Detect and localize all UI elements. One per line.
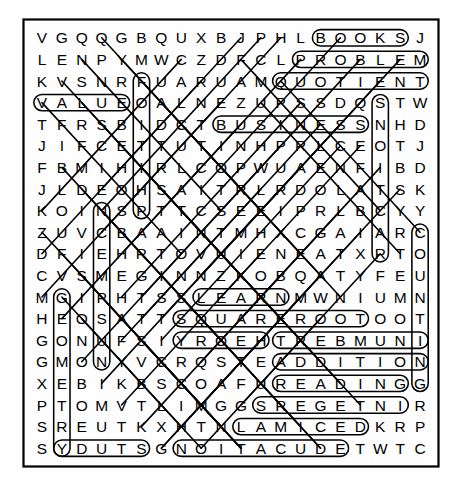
grid-letter: X <box>196 29 207 46</box>
grid-letter: K <box>375 29 386 46</box>
grid-letter: I <box>418 332 422 349</box>
grid-letter: A <box>315 245 326 262</box>
grid-letter: C <box>275 440 286 457</box>
grid-letter: S <box>156 375 166 392</box>
grid-letter: U <box>414 267 425 284</box>
grid-letter: Z <box>236 94 245 111</box>
grid-letter: N <box>275 245 286 262</box>
grid-letter: U <box>176 29 187 46</box>
grid-letter: M <box>394 289 407 306</box>
grid-letter: R <box>116 73 127 90</box>
grid-letter: R <box>255 310 266 327</box>
grid-letter: S <box>37 418 47 435</box>
grid-letter: K <box>37 73 48 90</box>
grid-letter: E <box>335 418 345 435</box>
grid-letter: T <box>395 137 405 154</box>
grid-letter: N <box>414 353 425 370</box>
grid-letter: M <box>354 332 367 349</box>
grid-letter: J <box>38 137 46 154</box>
grid-letter: E <box>335 440 345 457</box>
grid-letter: O <box>374 310 386 327</box>
grid-letter: R <box>395 418 406 435</box>
grid-letter: R <box>176 353 187 370</box>
grid-letter: A <box>57 94 68 111</box>
grid-letter: T <box>117 440 127 457</box>
grid-letter: D <box>414 116 425 133</box>
grid-letter: T <box>117 418 127 435</box>
grid-letter: D <box>335 94 346 111</box>
grid-letter: K <box>415 181 426 198</box>
grid-letter: O <box>394 353 406 370</box>
grid-letter: E <box>96 245 106 262</box>
grid-letter: E <box>335 397 345 414</box>
grid-letter: J <box>416 137 424 154</box>
grid-letter: S <box>375 94 385 111</box>
grid-letter: G <box>315 397 327 414</box>
grid-letter: U <box>375 289 386 306</box>
grid-letter: W <box>313 289 328 306</box>
grid-letter: I <box>378 353 382 370</box>
grid-letter: J <box>416 29 424 46</box>
grid-letter: O <box>56 202 68 219</box>
grid-letter: R <box>395 224 406 241</box>
grid-letter: T <box>137 397 147 414</box>
grid-letter: T <box>276 332 286 349</box>
grid-letter: M <box>55 353 68 370</box>
grid-letter: R <box>56 418 67 435</box>
grid-letter: G <box>36 332 48 349</box>
grid-letter: R <box>315 202 326 219</box>
grid-letter: T <box>196 418 206 435</box>
grid-letter: E <box>57 51 67 68</box>
grid-letter: O <box>195 375 207 392</box>
grid-letter: Q <box>76 29 88 46</box>
grid-letter: T <box>415 73 425 90</box>
grid-letter: G <box>414 375 426 392</box>
grid-letter: C <box>36 267 47 284</box>
grid-letter: E <box>116 267 126 284</box>
grid-letter: B <box>395 159 405 176</box>
grid-letter: L <box>296 29 305 46</box>
grid-letter: Q <box>295 267 307 284</box>
grid-letter: H <box>395 116 406 133</box>
grid-letter: A <box>256 418 267 435</box>
grid-letter: T <box>356 310 366 327</box>
grid-letter: B <box>136 29 146 46</box>
grid-letter: P <box>96 51 106 68</box>
grid-letter: E <box>256 353 266 370</box>
grid-letter: C <box>315 418 326 435</box>
grid-letter: Y <box>415 202 425 219</box>
grid-letter: B <box>216 116 226 133</box>
grid-letter: Z <box>196 51 205 68</box>
grid-letter: N <box>375 375 386 392</box>
grid-letter: N <box>176 440 187 457</box>
grid-letter: C <box>414 440 425 457</box>
grid-letter: T <box>336 267 346 284</box>
grid-letter: L <box>376 51 385 68</box>
grid-letter: L <box>276 51 285 68</box>
grid-letter: T <box>57 397 67 414</box>
grid-letter: I <box>358 375 362 392</box>
grid-letter: V <box>37 29 48 46</box>
grid-letter: N <box>414 289 425 306</box>
grid-letter: I <box>179 397 183 414</box>
grid-letter: I <box>358 289 362 306</box>
grid-letter: S <box>96 310 106 327</box>
grid-letter: A <box>236 289 247 306</box>
grid-letter: T <box>356 440 366 457</box>
grid-letter: K <box>116 375 127 392</box>
grid-letter: T <box>356 353 366 370</box>
grid-letter: A <box>315 375 326 392</box>
grid-letter: K <box>375 418 386 435</box>
grid-letter: U <box>215 310 226 327</box>
grid-letter: F <box>236 375 245 392</box>
grid-letter: N <box>375 397 386 414</box>
grid-letter: T <box>37 116 47 133</box>
grid-letter: I <box>398 397 402 414</box>
grid-letter: E <box>315 332 325 349</box>
puzzle-canvas[interactable]: VGQQGBQUXBJPHLBOOKSJLENPYMWCZDFCLPROBLEM… <box>22 18 440 468</box>
grid-letter: R <box>76 116 87 133</box>
grid-letter: I <box>358 73 362 90</box>
grid-letter: X <box>355 245 366 262</box>
grid-letter: N <box>275 289 286 306</box>
word-search-puzzle[interactable]: VGQQGBQUXBJPHLBOOKSJLENPYMWCZDFCLPROBLEM… <box>22 18 440 468</box>
